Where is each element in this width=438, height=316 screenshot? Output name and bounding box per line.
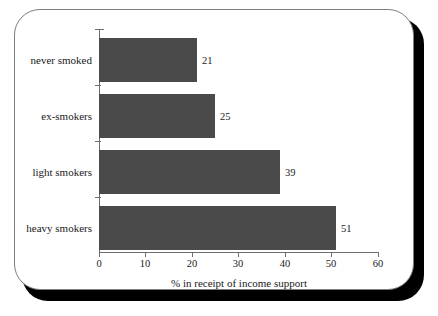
bar-light-smokers xyxy=(99,150,280,194)
x-axis-tick xyxy=(145,252,146,257)
x-axis-tick xyxy=(378,252,379,257)
y-axis-tick xyxy=(95,197,101,198)
bar-chart: 21 25 39 51 never smoked ex-smokers ligh… xyxy=(0,0,438,316)
x-tick-label-30: 30 xyxy=(223,259,253,270)
category-label-light-smokers: light smokers xyxy=(0,167,92,178)
x-axis-tick xyxy=(192,252,193,257)
x-axis-line xyxy=(99,252,379,253)
x-axis-tick xyxy=(285,252,286,257)
x-tick-label-10: 10 xyxy=(130,259,160,270)
bar-value-ex-smokers: 25 xyxy=(220,112,231,123)
x-tick-label-40: 40 xyxy=(270,259,300,270)
x-axis-tick xyxy=(238,252,239,257)
y-axis-top-cap xyxy=(95,29,104,30)
x-tick-label-20: 20 xyxy=(177,259,207,270)
bar-value-heavy-smokers: 51 xyxy=(341,224,352,235)
bar-ex-smokers xyxy=(99,94,215,138)
x-axis-title: % in receipt of income support xyxy=(99,278,379,289)
category-label-ex-smokers: ex-smokers xyxy=(0,111,92,122)
bar-never-smoked xyxy=(99,38,197,82)
category-label-heavy-smokers: heavy smokers xyxy=(0,223,92,234)
bar-value-light-smokers: 39 xyxy=(285,168,296,179)
x-axis-tick xyxy=(331,252,332,257)
y-axis-tick xyxy=(95,85,101,86)
bar-value-never-smoked: 21 xyxy=(202,56,213,67)
bar-heavy-smokers xyxy=(99,206,336,250)
x-axis-tick xyxy=(99,252,100,257)
x-tick-label-50: 50 xyxy=(316,259,346,270)
x-tick-label-0: 0 xyxy=(84,259,114,270)
x-tick-label-60: 60 xyxy=(363,259,393,270)
category-label-never-smoked: never smoked xyxy=(0,55,92,66)
y-axis-tick xyxy=(95,141,101,142)
